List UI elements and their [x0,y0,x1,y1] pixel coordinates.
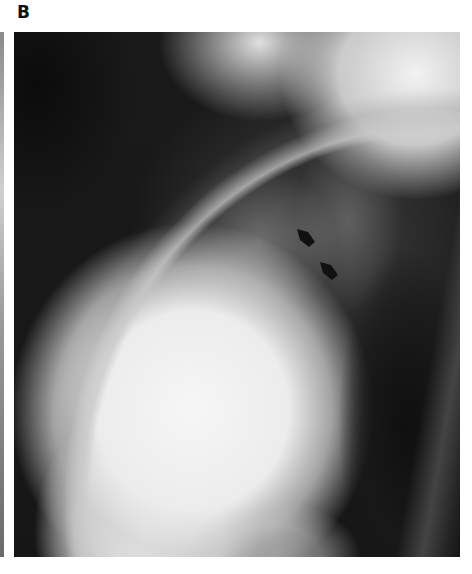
adjacent-panel-edge [0,32,4,557]
diaphragm-dome [14,32,460,557]
lateral-chest-radiograph [14,32,460,557]
panel-label: B [17,2,30,22]
arrowhead-icon [296,228,316,248]
arrowhead-icon [319,261,339,281]
